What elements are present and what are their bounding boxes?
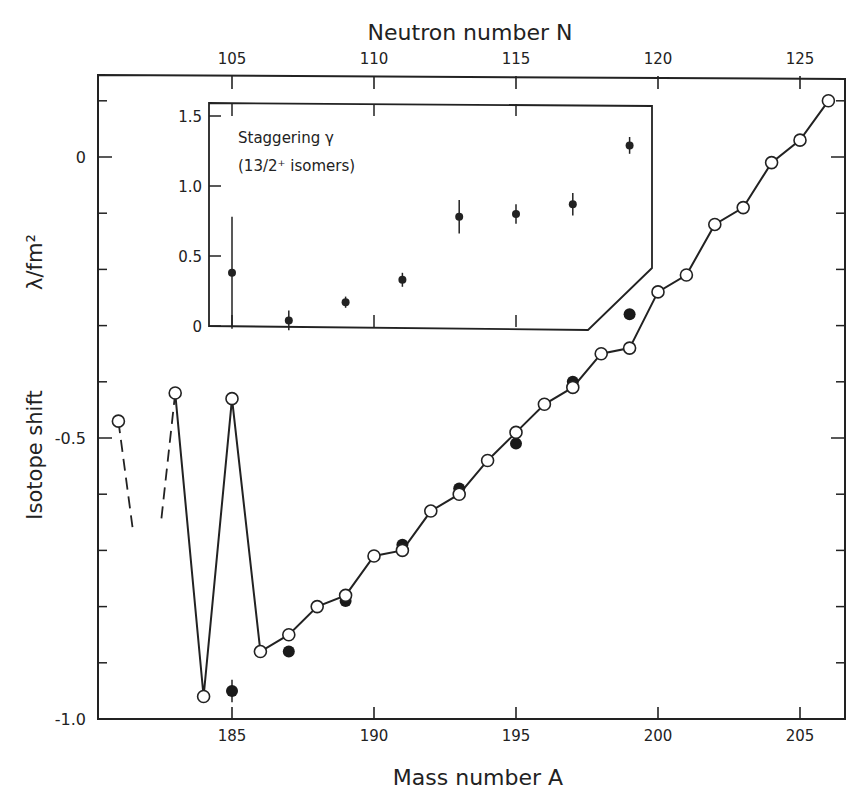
x-tick-label: 185 <box>218 727 247 745</box>
ground-state-point <box>198 691 210 703</box>
ground-state-point <box>453 488 465 500</box>
x2-tick-label: 125 <box>786 50 815 68</box>
dashed-stub <box>118 421 132 528</box>
ground-state-point <box>538 398 550 410</box>
ground-state-point <box>595 348 607 360</box>
inset-y-tick-label: 1.5 <box>178 108 202 126</box>
ground-state-point <box>680 269 692 281</box>
ground-state-point <box>794 134 806 146</box>
y-tick-label: 0 <box>76 148 86 167</box>
y-tick-label: -0.5 <box>55 429 86 448</box>
ground-state-point <box>510 426 522 438</box>
x2-tick-label: 110 <box>360 50 389 68</box>
inset-subtitle: (13/2⁺ isomers) <box>238 157 355 175</box>
ground-state-point <box>254 646 266 658</box>
ground-state-point <box>226 393 238 405</box>
y-axis-title: Isotope shift <box>23 390 47 519</box>
ground-state-point <box>624 342 636 354</box>
inset-y-tick-label: 0 <box>192 318 202 336</box>
x2-tick-label: 120 <box>644 50 673 68</box>
isomer-point <box>283 646 295 658</box>
ground-state-point <box>311 601 323 613</box>
isomer-point <box>624 308 636 320</box>
ground-state-point <box>567 381 579 393</box>
ground-state-point <box>482 454 494 466</box>
y-axis-unit: λ/fm² <box>23 234 47 290</box>
bottom-axis-title: Mass number A <box>393 765 563 790</box>
x-tick-label: 195 <box>502 727 531 745</box>
inset-point <box>512 210 520 218</box>
ground-state-point <box>283 629 295 641</box>
isotope-shift-chart: 1851901952002051051101151201250-0.5-1.0 … <box>0 0 867 796</box>
inset-point <box>342 298 350 306</box>
ground-state-point <box>112 415 124 427</box>
inset-y-tick-label: 0.5 <box>178 248 202 266</box>
ground-state-point <box>822 95 834 107</box>
ground-state-point <box>396 544 408 556</box>
ground-state-point <box>368 550 380 562</box>
x2-tick-label: 115 <box>502 50 531 68</box>
isomer-point <box>510 438 522 450</box>
isomer-point <box>226 685 238 697</box>
ground-state-point <box>340 589 352 601</box>
inset-point <box>455 213 463 221</box>
x-tick-label: 200 <box>644 727 673 745</box>
inset-point <box>398 276 406 284</box>
x-tick-label: 205 <box>786 727 815 745</box>
x2-tick-label: 105 <box>218 50 247 68</box>
inset-point <box>626 141 634 149</box>
ground-state-point <box>766 157 778 169</box>
ground-state-point <box>425 505 437 517</box>
inset-title: Staggering γ <box>238 129 334 147</box>
ground-state-point <box>737 202 749 214</box>
inset-point <box>228 269 236 277</box>
ground-state-point <box>169 387 181 399</box>
top-axis-title: Neutron number N <box>368 20 573 45</box>
inset-point <box>569 200 577 208</box>
dashed-stub <box>161 393 175 522</box>
ground-state-point <box>709 218 721 230</box>
ground-state-point <box>652 286 664 298</box>
y-tick-label: -1.0 <box>55 710 86 729</box>
x-tick-label: 190 <box>360 727 389 745</box>
inset-point <box>285 316 293 324</box>
inset-y-tick-label: 1.0 <box>178 178 202 196</box>
